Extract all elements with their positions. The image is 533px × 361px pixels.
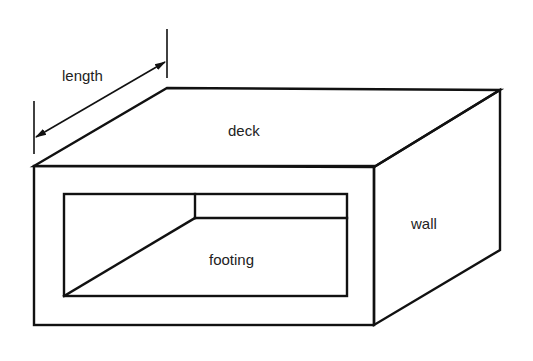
wall-label: wall [410,215,437,232]
footing-label: footing [209,251,254,268]
length-label: length [62,67,103,84]
wall-face [374,90,500,325]
deck-label: deck [228,122,260,139]
box-culvert-diagram: length deck wall footing [0,0,533,361]
front-face [34,166,374,325]
culvert-opening [64,194,347,296]
length-dimension: length [34,29,167,154]
inner-diagonal-edge [64,218,195,296]
opening-outline [64,194,347,296]
deck-face [34,88,500,167]
